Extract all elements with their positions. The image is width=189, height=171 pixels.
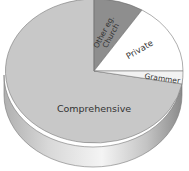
pie-chart: Comprehensive Other eg. Church Private G… — [0, 0, 189, 171]
label-comprehensive: Comprehensive — [57, 103, 131, 114]
